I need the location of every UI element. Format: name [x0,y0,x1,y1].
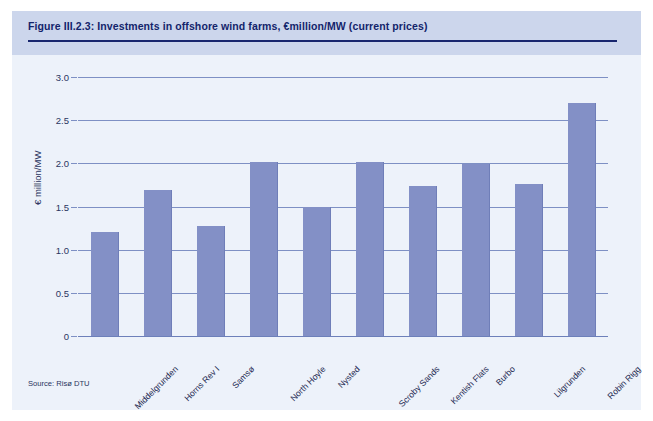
bar [197,226,225,337]
y-tick-label: 0 [64,331,69,342]
bar [91,232,119,336]
y-tick-label: 1.0 [56,244,69,255]
x-tick-label: Middelgrunden [132,364,179,411]
y-axis-title: € million/MW [32,151,43,205]
y-tick-label: 1.5 [56,201,69,212]
x-axis-category-2: Horns Rev I [182,364,221,403]
x-tick-label: Horns Rev I [182,364,221,403]
x-tick-label: Burbo [493,364,516,387]
figure-panel: Figure III.2.3: Investments in offshore … [12,11,641,410]
bar [144,190,172,336]
x-axis-category-9: Lilgrunden [551,364,586,399]
chart-plot-wrapper: € million/MW 00.51.01.52.02.53.0 Middelg… [12,55,641,410]
title-divider-rule [28,40,617,42]
y-tick-label: 0.5 [56,287,69,298]
y-tick-mark [71,120,77,121]
y-tick-label: 3.0 [56,72,69,83]
x-axis-category-8: Burbo [493,364,516,387]
y-tick-mark [71,293,77,294]
x-axis-category-1: Middelgrunden [132,364,179,411]
bar [409,186,437,336]
bar [462,164,490,336]
x-tick-label: Nysted [335,364,361,390]
y-tick-label: 2.0 [56,158,69,169]
bar [515,184,543,336]
x-tick-label: Scroby Sands [396,364,441,409]
y-tick-mark [71,207,77,208]
plot-area: 00.51.01.52.02.53.0 MiddelgrundenHorns R… [78,77,608,336]
x-axis-category-5: Nysted [335,364,361,390]
source-note: Source: Risø DTU [28,379,90,388]
y-tick-mark [71,250,77,251]
figure-title: Figure III.2.3: Investments in offshore … [28,20,427,32]
x-axis-category-10: Robin Rigg [605,364,642,401]
y-tick-mark [71,336,77,337]
bar [303,207,331,337]
y-tick-mark [71,163,77,164]
x-tick-label: Lilgrunden [551,364,586,399]
x-axis-category-6: Scroby Sands [396,364,441,409]
y-tick-label: 2.5 [56,115,69,126]
bars-layer [78,77,608,336]
x-axis-category-4: North Hoyle [288,364,327,403]
x-axis-category-3: Samsø [229,364,255,390]
x-tick-label: Kentish Flats [448,364,490,406]
gridline-0 [78,336,608,337]
x-tick-label: Robin Rigg [605,364,642,401]
x-tick-label: Samsø [229,364,255,390]
y-tick-mark [71,77,77,78]
figure-header-band: Figure III.2.3: Investments in offshore … [12,11,641,55]
bar [250,162,278,336]
x-axis-category-7: Kentish Flats [448,364,490,406]
bar [568,103,596,336]
bar [356,162,384,336]
x-tick-label: North Hoyle [288,364,327,403]
